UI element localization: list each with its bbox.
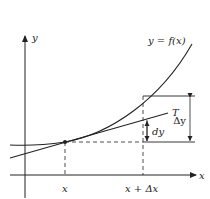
curve-label: y = f(x)	[147, 35, 186, 46]
x-plus-dx-tick-label: x + Δx	[125, 183, 159, 194]
x-axis-label: x	[199, 170, 205, 181]
dy-label: dy	[152, 126, 164, 137]
x-tick-label: x	[62, 183, 68, 194]
diagram-canvas: y x y = f(x) T Δy dy x x + Δx	[0, 0, 210, 199]
curve-f	[10, 44, 192, 145]
tangent-line	[10, 113, 168, 158]
delta-y-label: Δy	[173, 115, 186, 126]
y-axis-label: y	[31, 32, 38, 43]
